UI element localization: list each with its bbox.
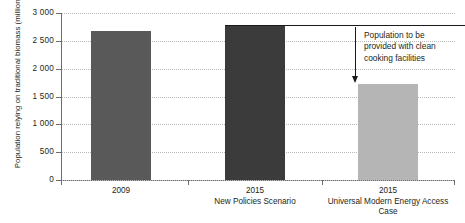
x-axis-label-main: 2009 xyxy=(76,186,166,197)
y-axis-tick-label: 500 xyxy=(12,147,54,156)
annotation-line-1: Population to be xyxy=(364,30,464,41)
annotation-arrow-head-icon xyxy=(352,76,358,83)
y-axis-tick-label: 1 500 xyxy=(12,92,54,101)
category-separator-tick xyxy=(188,180,189,185)
x-axis-label: 2015Universal Modern Energy Access Case xyxy=(322,186,454,218)
y-axis-tick-label: 2 500 xyxy=(12,36,54,45)
y-axis-tick-label: 1 000 xyxy=(12,119,54,128)
x-axis-label-main: 2015 xyxy=(193,186,318,197)
annotation-text: Population to be provided with clean coo… xyxy=(364,30,464,64)
x-axis-label: 2009 xyxy=(76,186,166,197)
gridline xyxy=(62,13,455,14)
gridline xyxy=(62,180,455,181)
y-axis-tick-label: 0 xyxy=(12,175,54,184)
annotation-baseline-rule xyxy=(225,25,465,26)
annotation-line-2: provided with clean xyxy=(364,41,464,52)
bar xyxy=(358,84,418,180)
bar xyxy=(91,31,151,180)
x-axis-label-main: 2015 xyxy=(322,186,454,197)
chart-container: Population relying on traditional biomas… xyxy=(0,0,465,223)
y-axis-tick-label: 2 000 xyxy=(12,64,54,73)
annotation-arrow-shaft xyxy=(355,27,356,78)
x-axis-label: 2015New Policies Scenario xyxy=(193,186,318,207)
axis-end-tick xyxy=(454,180,455,185)
bar xyxy=(225,26,285,180)
y-axis-tick-label: 3 000 xyxy=(12,8,54,17)
x-axis-label-sub: Universal Modern Energy Access Case xyxy=(322,197,454,218)
category-separator-tick xyxy=(322,180,323,185)
annotation-line-3: cooking facilities xyxy=(364,53,464,64)
axis-start-tick xyxy=(61,180,62,185)
x-axis-label-sub: New Policies Scenario xyxy=(193,197,318,208)
